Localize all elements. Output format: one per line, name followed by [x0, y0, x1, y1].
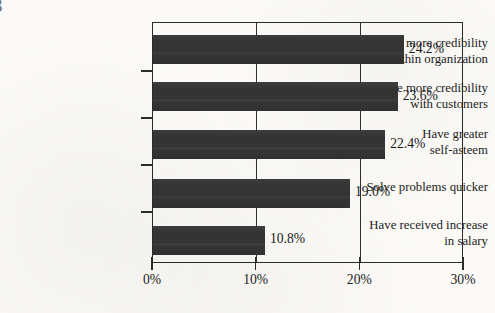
x-axis-tick-10 [255, 257, 257, 270]
value-label-credibility-within-organization: 24.2% [409, 42, 444, 56]
x-axis-label-0-percent: 0% [143, 272, 161, 287]
bar-credibility-with-customers [153, 82, 398, 111]
page-corner-mark: 3 [0, 0, 3, 15]
value-label-solve-problems-quicker: 19.0% [355, 185, 390, 199]
x-axis-tick-20 [359, 257, 361, 270]
value-label-credibility-with-customers: 23.6% [403, 89, 438, 103]
chart-page: 3 Have more credibility within organizat… [0, 0, 495, 313]
x-axis-label-20-percent: 20% [347, 272, 372, 287]
bar-solve-problems-quicker [153, 179, 350, 208]
bar-credibility-within-organization [153, 35, 404, 64]
x-axis-label-10-percent: 10% [243, 272, 268, 287]
bar-received-increase-in-salary [153, 226, 265, 255]
x-axis-tick-0 [151, 257, 153, 270]
value-label-received-increase-in-salary: 10.8% [270, 232, 305, 246]
x-axis-tick-30 [462, 257, 464, 270]
bar-greater-self-asteem [153, 130, 385, 159]
value-label-greater-self-asteem: 22.4% [390, 137, 425, 151]
x-axis-label-30-percent: 30% [451, 272, 476, 287]
